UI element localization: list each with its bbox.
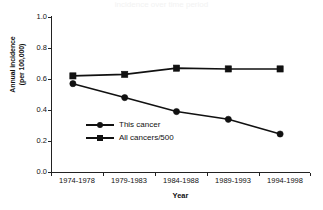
data-point	[70, 81, 76, 87]
chart-legend: This cancer All cancers/500	[86, 118, 174, 144]
data-point	[277, 66, 283, 72]
legend-item-all-cancers: All cancers/500	[86, 131, 174, 144]
data-point	[122, 71, 128, 77]
data-point	[70, 73, 76, 79]
legend-item-this-cancer: This cancer	[86, 118, 174, 131]
data-point	[122, 95, 128, 101]
legend-label: All cancers/500	[119, 133, 174, 142]
data-point	[173, 65, 179, 71]
data-point	[225, 66, 231, 72]
series-markers-all-cancers	[70, 65, 283, 79]
data-point	[225, 116, 231, 122]
legend-label: This cancer	[119, 120, 160, 129]
data-point	[173, 108, 179, 114]
data-point	[277, 131, 283, 137]
chart-figure: incidence over time period Annual incide…	[0, 0, 323, 210]
square-marker-icon	[86, 132, 114, 143]
circle-marker-icon	[86, 119, 114, 130]
plot-area	[0, 0, 323, 210]
